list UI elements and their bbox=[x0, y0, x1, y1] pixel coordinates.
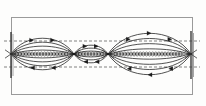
x-point-1 bbox=[73, 53, 75, 55]
flow-arrowhead bbox=[29, 38, 33, 42]
flow-arrowhead bbox=[52, 66, 56, 70]
flow-arrowhead bbox=[50, 38, 54, 42]
axis-group bbox=[11, 52, 192, 56]
flow-arrowhead bbox=[31, 66, 35, 70]
flow-arrowhead bbox=[148, 73, 152, 77]
x-point-2 bbox=[107, 53, 109, 55]
flow-arrowhead bbox=[84, 60, 88, 64]
flow-arrowhead bbox=[95, 60, 99, 64]
field-line-diagram-canvas bbox=[0, 0, 206, 106]
flow-arrowhead bbox=[147, 31, 151, 35]
island-right-curve-upper bbox=[110, 49, 189, 54]
figure-root: Magnetic island chain field-line diagram… bbox=[0, 0, 206, 106]
flow-arrowhead bbox=[94, 44, 98, 48]
flow-arrowhead bbox=[83, 44, 87, 48]
island-right-curve-lower bbox=[110, 54, 189, 59]
